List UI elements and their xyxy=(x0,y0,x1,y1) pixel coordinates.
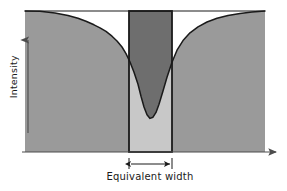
equivalent-width-figure: Intensity Equivalent width xyxy=(0,0,287,191)
y-axis-label: Intensity xyxy=(9,41,19,113)
plot-canvas xyxy=(0,0,287,191)
equivalent-width-measure-arrow xyxy=(129,158,172,169)
x-axis-label: Equivalent width xyxy=(60,172,240,182)
